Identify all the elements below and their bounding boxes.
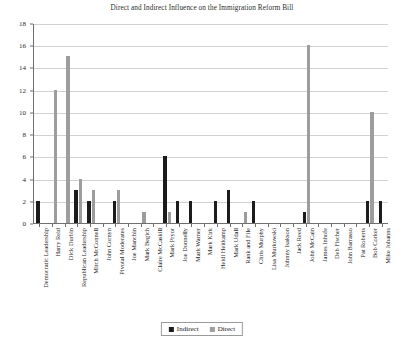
x-axis-tick-mark [52, 224, 53, 227]
x-axis-tick-label: James Inhofe [321, 228, 328, 262]
bar-group [326, 24, 339, 223]
bar-group [173, 24, 186, 223]
x-axis-tick-label: Rank and File [244, 228, 251, 264]
bar-direct [244, 212, 247, 223]
x-axis-tick-label: Mark Kirk [206, 228, 213, 255]
x-axis-tick-mark [280, 224, 281, 227]
y-axis-tick-label: 14 [19, 64, 26, 72]
bar-direct [54, 90, 57, 223]
bar-direct [66, 56, 69, 223]
x-axis-tick-mark [268, 224, 269, 227]
x-axis-tick-label: Lisa Murkowski [270, 228, 277, 270]
legend-swatch-indirect [169, 327, 174, 332]
bar-indirect [36, 201, 39, 223]
x-axis-tick-mark [318, 224, 319, 227]
bar-direct [142, 212, 145, 223]
bar-indirect [252, 201, 255, 223]
x-axis-tick-label: Harry Reid [54, 228, 61, 257]
y-axis-tick-label: 0 [23, 220, 27, 228]
bar-indirect [303, 212, 306, 223]
legend-label: Direct [218, 325, 236, 333]
chart-title: Direct and Indirect Influence on the Imm… [0, 4, 404, 12]
x-axis-tick-mark [255, 224, 256, 227]
bar-group [237, 24, 250, 223]
bar-series-group [34, 24, 388, 223]
x-axis-tick-label: Republican Leadership [80, 228, 87, 287]
x-axis-tick-label: Mark Begich [143, 228, 150, 262]
x-axis-tick-label: Mark Pryor [168, 228, 175, 258]
bar-group [199, 24, 212, 223]
x-axis-tick-label: Mark Udall [232, 228, 239, 258]
bar-direct [370, 112, 373, 223]
x-axis-tick-label: Mark Warner [194, 228, 201, 262]
x-axis-tick-mark [382, 224, 383, 227]
x-axis-tick-mark [356, 224, 357, 227]
x-axis-tick-label: Chris Murphy [257, 228, 264, 264]
x-axis-tick-mark [217, 224, 218, 227]
x-axis-tick-label: Jack Reed [295, 228, 302, 254]
bar-indirect [113, 201, 116, 223]
bar-indirect [163, 156, 166, 223]
x-axis-tick-label: John McCain [308, 228, 315, 262]
legend-swatch-direct [210, 327, 215, 332]
bar-group [224, 24, 237, 223]
bar-direct [92, 190, 95, 223]
x-axis-tick-label: Dick Durbin [67, 228, 74, 260]
x-axis-tick-mark [115, 224, 116, 227]
bar-group [186, 24, 199, 223]
y-axis-tick-label: 10 [19, 109, 26, 117]
x-axis-tick-label: Joe Manchin [130, 228, 137, 261]
legend-item: Indirect [169, 325, 199, 333]
bar-group [148, 24, 161, 223]
bar-group [262, 24, 275, 223]
x-axis-tick-label: Heidi Heitkamp [219, 228, 226, 269]
x-axis-tick-label: John Cornyn [105, 228, 112, 261]
x-axis-tick-mark [191, 224, 192, 227]
x-axis-tick-mark [77, 224, 78, 227]
x-axis-tick-label: Mike Johanns [384, 228, 391, 264]
bar-indirect [214, 201, 217, 223]
x-axis-tick-mark [331, 224, 332, 227]
bar-group [34, 24, 47, 223]
x-axis-tick-mark [141, 224, 142, 227]
bar-group [135, 24, 148, 223]
bar-group [47, 24, 60, 223]
x-axis-tick-label: Deb Fischer [333, 228, 340, 259]
y-axis-tick-label: 6 [23, 153, 27, 161]
bar-group [72, 24, 85, 223]
bar-group [300, 24, 313, 223]
x-axis-tick-mark [166, 224, 167, 227]
x-axis-tick-mark [179, 224, 180, 227]
y-axis-tick-label: 16 [19, 42, 26, 50]
x-axis-tick-mark [204, 224, 205, 227]
x-axis-tick-label: Mitch McConnell [92, 228, 99, 274]
chart-container: Direct and Indirect Influence on the Imm… [0, 0, 404, 348]
bar-group [97, 24, 110, 223]
x-axis-tick-mark [369, 224, 370, 227]
x-axis-ticks [33, 224, 388, 227]
x-axis-tick-label: Claire McCaskill [156, 228, 163, 272]
bar-indirect [176, 201, 179, 223]
bar-group [376, 24, 389, 223]
y-axis-tick-label: 2 [23, 198, 27, 206]
y-axis-tick-label: 8 [23, 131, 27, 139]
x-axis-tick-label: Bob Corker [371, 228, 378, 258]
chart-legend: IndirectDirect [161, 322, 243, 336]
bar-group [123, 24, 136, 223]
y-axis-tick-label: 4 [23, 176, 27, 184]
bar-direct [117, 190, 120, 223]
x-axis-tick-mark [39, 224, 40, 227]
bar-group [85, 24, 98, 223]
bar-indirect [189, 201, 192, 223]
x-axis-tick-label: Democratic Leadership [42, 228, 49, 288]
y-axis-tick-label: 12 [19, 87, 26, 95]
bar-indirect [87, 201, 90, 223]
x-axis-tick-mark [344, 224, 345, 227]
x-axis-tick-label: Joe Donnelly [181, 228, 188, 262]
x-axis-tick-mark [153, 224, 154, 227]
x-axis-tick-mark [242, 224, 243, 227]
x-axis-labels: Democratic LeadershipHarry ReidDick Durb… [33, 228, 388, 318]
bar-group [59, 24, 72, 223]
bar-group [110, 24, 123, 223]
bar-group [364, 24, 377, 223]
